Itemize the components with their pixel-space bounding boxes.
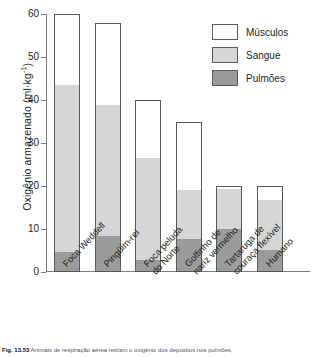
y-axis-tick [41, 272, 46, 273]
y-axis-title-suffix: ) [21, 63, 33, 67]
legend: MúsculosSanguePulmões [212, 24, 288, 93]
legend-label: Músculos [246, 27, 288, 38]
bar-segment-sangue [55, 85, 79, 251]
legend-item-musculos[interactable]: Músculos [212, 24, 288, 40]
bar-segment-musculos [258, 187, 282, 200]
y-axis-tick-label: 0 [33, 267, 39, 277]
bar-segment-musculos [55, 15, 79, 85]
figure-caption: Fig. 13.53 Animais de respiração aérea r… [2, 347, 322, 354]
bar-segment-musculos [177, 123, 201, 191]
legend-label: Sangue [246, 50, 280, 61]
bar-segment-musculos [96, 24, 120, 105]
legend-item-sangue[interactable]: Sangue [212, 47, 288, 63]
legend-swatch-sangue [212, 47, 238, 63]
bar-1[interactable] [54, 14, 80, 272]
y-axis-title-exponent: -1 [19, 66, 28, 73]
y-axis-tick-label: 50 [28, 52, 39, 62]
bar-segment-sangue [96, 105, 120, 236]
figure: Oxigênio armazenado (ml·kg-1) 0102030405… [0, 0, 322, 357]
y-axis-tick-label: 30 [28, 138, 39, 148]
y-axis-tick-label: 60 [28, 9, 39, 19]
y-axis-tick-label: 10 [28, 224, 39, 234]
legend-swatch-pulmoes [212, 70, 238, 86]
figure-caption-number: Fig. 13.53 [2, 347, 29, 353]
legend-label: Pulmões [246, 73, 285, 84]
legend-item-pulmoes[interactable]: Pulmões [212, 70, 288, 86]
legend-swatch-musculos [212, 24, 238, 40]
y-axis-tick-label: 40 [28, 95, 39, 105]
bar-segment-musculos [136, 101, 160, 158]
y-axis-tick-label: 20 [28, 181, 39, 191]
figure-caption-text: Animais de respiração aérea retiram o ox… [31, 347, 233, 353]
